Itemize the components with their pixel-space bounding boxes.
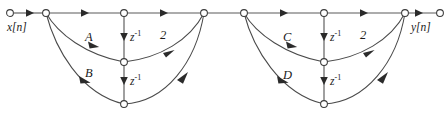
arrowhead-s2-top-left (280, 9, 288, 17)
edge-s1bot-to-s1right (124, 13, 204, 104)
edge-coefficient-d (244, 13, 324, 104)
input-label: x[n] (7, 22, 27, 34)
delay-s1-1-label: z-1 (130, 30, 141, 43)
coefficient-c-label: C (283, 31, 291, 44)
delay-s2-2-exponent: -1 (334, 73, 341, 82)
node-input[interactable] (7, 10, 14, 17)
gain-s2-label: 2 (360, 29, 366, 42)
signal-flow-graph-figure: x[n] y[n] A B C D 2 2 z-1 z-1 z-1 z-1 (0, 0, 448, 120)
delay-s1-1-exponent: -1 (134, 29, 141, 38)
coefficient-b-text: B (85, 66, 93, 80)
output-label: y[n] (411, 22, 431, 34)
coefficient-a-text: A (85, 30, 93, 44)
node-s1-left[interactable] (43, 10, 50, 17)
arrowhead-s2-delay2 (320, 77, 328, 85)
node-s2-right[interactable] (402, 10, 409, 17)
coefficient-c-text: C (283, 30, 291, 44)
delay-s2-2-label: z-1 (330, 74, 341, 87)
coefficient-d-label: D (283, 69, 292, 82)
delay-s1-2-label: z-1 (130, 74, 141, 87)
node-s1-top-mid[interactable] (121, 10, 128, 17)
edge-coefficient-b (46, 13, 124, 104)
graph-canvas (0, 0, 448, 120)
arrowhead-s2-top-right (360, 9, 368, 17)
coefficient-d-text: D (283, 68, 292, 82)
arrowhead-s1-delay2 (120, 77, 128, 85)
node-s1-mid[interactable] (121, 59, 128, 66)
coefficient-a-label: A (85, 31, 93, 44)
delay-s2-1-label: z-1 (330, 30, 341, 43)
edge-s2bot-to-s2right (324, 13, 405, 104)
input-label-text: x[n] (7, 21, 27, 33)
arrowhead-gain-s2 (363, 50, 375, 58)
output-label-text: y[n] (411, 21, 431, 33)
arrowhead-output-edge (415, 9, 423, 17)
node-output[interactable] (437, 10, 444, 17)
node-s1-bottom[interactable] (121, 101, 128, 108)
node-s1-right[interactable] (201, 10, 208, 17)
coefficient-b-label: B (85, 67, 93, 80)
node-s2-mid[interactable] (321, 59, 328, 66)
arrowhead-gain-s1 (163, 50, 175, 58)
delay-s2-1-exponent: -1 (334, 29, 341, 38)
node-s2-left[interactable] (241, 10, 248, 17)
arrowhead-s1-delay1 (120, 33, 128, 41)
arrowhead-s1-top-right (160, 9, 168, 17)
gain-s1-text: 2 (160, 28, 166, 42)
gain-s2-text: 2 (360, 28, 366, 42)
arrowhead-input-edge (26, 9, 34, 17)
arrowhead-s2-delay1 (320, 33, 328, 41)
node-s2-bottom[interactable] (321, 101, 328, 108)
delay-s1-2-exponent: -1 (134, 73, 141, 82)
arrowhead-s1-top-left (81, 9, 89, 17)
gain-s1-label: 2 (160, 29, 166, 42)
node-s2-top-mid[interactable] (321, 10, 328, 17)
